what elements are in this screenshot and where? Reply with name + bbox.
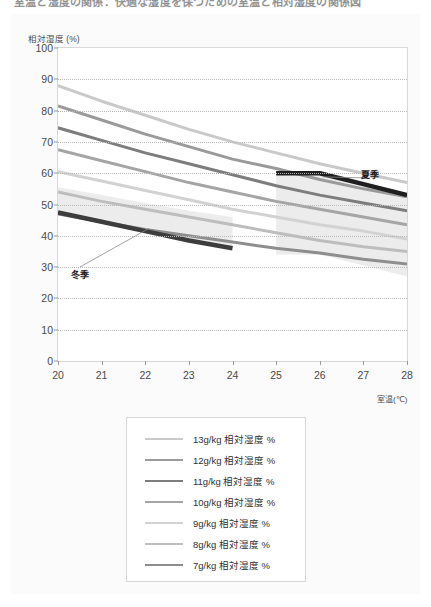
annotation-label-winter: 冬季 (71, 268, 89, 281)
series-line-0 (58, 86, 407, 183)
y-tick-label: 100 (35, 42, 53, 54)
y-tick-label: 10 (41, 324, 53, 336)
x-tick-label: 20 (52, 369, 64, 381)
gridline-horizontal (58, 267, 407, 268)
legend-label: 9g/kg 相対湿度 % (193, 516, 270, 530)
annotation-label-summer: 夏季 (361, 168, 379, 181)
y-tick-label: 30 (41, 261, 53, 273)
gridline-horizontal (58, 330, 407, 331)
humidity-chart: 相対湿度 (%) 室温(℃) 0102030405060708090100 20… (11, 14, 420, 399)
y-tick-mark (54, 235, 58, 236)
y-tick-mark (54, 110, 58, 111)
x-tick-mark (363, 361, 364, 365)
legend-swatch (145, 501, 183, 503)
y-tick-label: 20 (41, 292, 53, 304)
x-tick-label: 24 (227, 369, 239, 381)
gridline-horizontal (58, 173, 407, 174)
x-tick-mark (102, 361, 103, 365)
x-tick-label: 28 (401, 369, 413, 381)
x-tick-label: 25 (270, 369, 282, 381)
x-tick-mark (320, 361, 321, 365)
legend-label: 13g/kg 相対湿度 % (193, 432, 275, 446)
y-tick-label: 70 (41, 136, 53, 148)
legend-label: 12g/kg 相対湿度 % (193, 453, 275, 467)
legend-item: 7g/kg 相対湿度 % (127, 554, 305, 575)
x-tick-label: 26 (314, 369, 326, 381)
y-tick-mark (54, 79, 58, 80)
gridline-horizontal (58, 236, 407, 237)
x-tick-mark (276, 361, 277, 365)
legend-label: 7g/kg 相対湿度 % (193, 558, 270, 572)
legend-item: 11g/kg 相対湿度 % (127, 470, 305, 491)
gridline-horizontal (58, 142, 407, 143)
clipped-page-heading-text: 室温と湿度の関係：快適な湿度を保つための室温と相対湿度の関係図 (14, 0, 361, 9)
x-tick-mark (407, 361, 408, 365)
legend-swatch (145, 543, 183, 545)
plot-area: 0102030405060708090100 20212223242526272… (57, 47, 408, 362)
legend-label: 8g/kg 相対湿度 % (193, 537, 270, 551)
x-tick-label: 23 (183, 369, 195, 381)
x-tick-label: 22 (139, 369, 151, 381)
legend-swatch (145, 459, 183, 461)
clipped-page-heading: 室温と湿度の関係：快適な湿度を保つための室温と相対湿度の関係図 (0, 0, 431, 9)
y-tick-mark (54, 204, 58, 205)
y-tick-label: 40 (41, 230, 53, 242)
gridline-horizontal (58, 298, 407, 299)
x-tick-mark (189, 361, 190, 365)
y-tick-label: 0 (47, 355, 53, 367)
legend-swatch (145, 564, 183, 566)
chart-legend: 13g/kg 相対湿度 %12g/kg 相対湿度 %11g/kg 相対湿度 %1… (126, 417, 306, 582)
x-tick-label: 21 (96, 369, 108, 381)
chart-card: 相対湿度 (%) 室温(℃) 0102030405060708090100 20… (11, 14, 420, 594)
x-axis-title: 室温(℃) (377, 393, 407, 404)
screenshot-root: 室温と湿度の関係：快適な湿度を保つための室温と相対湿度の関係図 相対湿度 (%)… (0, 0, 431, 607)
y-tick-label: 50 (41, 199, 53, 211)
x-tick-mark (145, 361, 146, 365)
y-tick-mark (54, 141, 58, 142)
legend-swatch (145, 522, 183, 524)
gridline-horizontal (58, 79, 407, 80)
y-tick-mark (54, 298, 58, 299)
y-tick-label: 90 (41, 73, 53, 85)
x-tick-mark (58, 361, 59, 365)
y-tick-mark (54, 48, 58, 49)
y-tick-mark (54, 173, 58, 174)
plot-inner (58, 48, 407, 361)
legend-item: 13g/kg 相対湿度 % (127, 428, 305, 449)
gridline-horizontal (58, 205, 407, 206)
y-tick-mark (54, 267, 58, 268)
x-tick-label: 27 (358, 369, 370, 381)
legend-label: 11g/kg 相対湿度 % (193, 474, 275, 488)
gridline-horizontal (58, 111, 407, 112)
legend-item: 9g/kg 相対湿度 % (127, 512, 305, 533)
y-tick-label: 60 (41, 167, 53, 179)
legend-item: 8g/kg 相対湿度 % (127, 533, 305, 554)
y-tick-mark (54, 329, 58, 330)
legend-label: 10g/kg 相対湿度 % (193, 495, 275, 509)
legend-item: 10g/kg 相対湿度 % (127, 491, 305, 512)
x-tick-mark (233, 361, 234, 365)
legend-item: 12g/kg 相対湿度 % (127, 449, 305, 470)
legend-swatch (145, 480, 183, 482)
legend-swatch (145, 438, 183, 440)
y-tick-label: 80 (41, 105, 53, 117)
